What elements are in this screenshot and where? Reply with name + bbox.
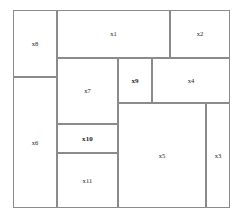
rectangle-x10: x10: [57, 124, 118, 153]
rectangle-x5: x5: [118, 103, 206, 208]
rectangle-x7: x7: [57, 58, 118, 124]
rectangle-label-x1: x1: [58, 31, 169, 38]
rectangle-x9: x9: [118, 58, 152, 103]
rectangle-x4: x4: [152, 58, 230, 103]
rectangle-x6: x6: [13, 77, 57, 208]
rectangle-label-x10: x10: [58, 135, 117, 142]
rectangle-x3: x3: [206, 103, 230, 208]
rectangle-label-x4: x4: [153, 77, 229, 84]
diagram-canvas: x1x2x8x7x9x4x6x10x11x5x3: [0, 0, 243, 220]
rectangle-label-x7: x7: [58, 88, 117, 95]
rectangle-label-x6: x6: [14, 139, 56, 146]
rectangle-label-x5: x5: [119, 152, 205, 159]
rectangle-label-x3: x3: [207, 152, 229, 159]
rectangle-x2: x2: [170, 10, 230, 58]
rectangle-x1: x1: [57, 10, 170, 58]
rectangle-x11: x11: [57, 153, 118, 208]
rectangle-label-x2: x2: [171, 31, 229, 38]
rectangle-x8: x8: [13, 10, 57, 77]
rectangle-label-x9: x9: [119, 77, 151, 84]
rectangle-label-x8: x8: [14, 40, 56, 47]
rectangle-label-x11: x11: [58, 177, 117, 184]
